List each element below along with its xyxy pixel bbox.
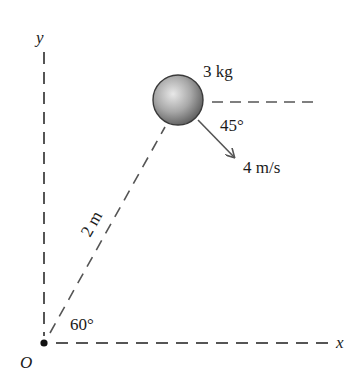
velocity-label: 4 m/s <box>243 158 280 177</box>
mass-ball <box>153 75 203 125</box>
mass-label: 3 kg <box>203 62 233 81</box>
position-angle-label: 60° <box>70 315 94 334</box>
distance-label: 2 m <box>77 208 106 240</box>
velocity-angle-label: 45° <box>220 116 244 135</box>
position-line <box>50 127 165 333</box>
origin-label: O <box>20 353 32 372</box>
origin-point <box>40 339 47 346</box>
y-axis-label: y <box>34 28 44 47</box>
particle-diagram: y x O 3 kg 45° 4 m/s 60° 2 m <box>0 0 362 378</box>
x-axis-label: x <box>335 333 344 352</box>
